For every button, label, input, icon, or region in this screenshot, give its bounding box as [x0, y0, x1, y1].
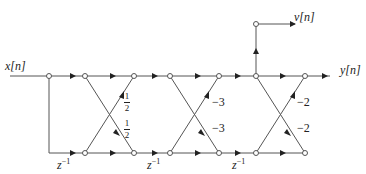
output-y-label: y[n] — [340, 64, 361, 76]
stage1-upper-coeff: 12 — [124, 92, 130, 113]
signal-flow-graph — [0, 0, 366, 174]
stage2-upper-coeff: −3 — [212, 96, 225, 108]
delay-label-2: z−1 — [147, 158, 160, 171]
output-v-label: v[n] — [294, 11, 315, 23]
lattice-filter-diagram: x[n] y[n] v[n] z−1 z−1 z−1 12 12 −3 −3 −… — [0, 0, 366, 174]
stage2-lower-coeff: −3 — [212, 122, 225, 134]
input-label: x[n] — [5, 60, 26, 72]
stage1-lower-coeff: 12 — [124, 119, 130, 140]
delay-label-1: z−1 — [57, 158, 70, 171]
stage3-upper-coeff: −2 — [297, 96, 310, 108]
stage3-lower-coeff: −2 — [297, 122, 310, 134]
delay-label-3: z−1 — [232, 158, 245, 171]
